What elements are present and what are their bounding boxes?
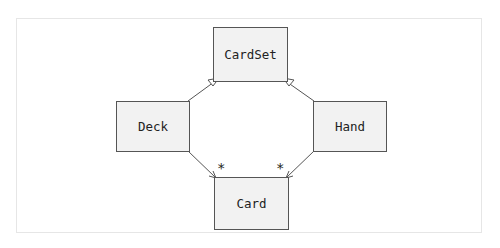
multiplicity-deck-card: * (217, 160, 225, 176)
class-name: Card (236, 196, 266, 211)
association-hand-card (287, 151, 314, 177)
class-cardset[interactable]: CardSet (213, 27, 288, 82)
class-card[interactable]: Card (214, 177, 289, 230)
association-deck-card (188, 151, 215, 177)
class-name: CardSet (224, 47, 277, 62)
multiplicity-hand-card: * (276, 160, 284, 176)
generalization-deck-cardset (188, 82, 214, 101)
class-deck[interactable]: Deck (116, 101, 190, 152)
class-hand[interactable]: Hand (313, 101, 387, 152)
generalization-hand-cardset (287, 82, 314, 101)
class-name: Deck (138, 119, 168, 134)
class-name: Hand (335, 119, 365, 134)
